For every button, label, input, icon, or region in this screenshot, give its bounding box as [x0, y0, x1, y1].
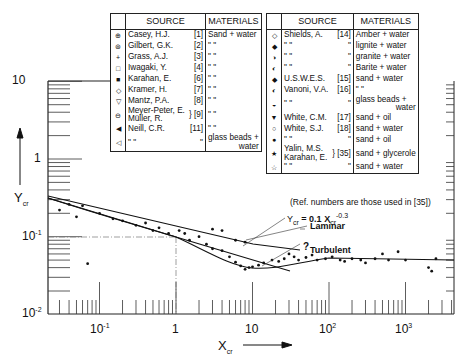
eq-exp: -0.3 — [336, 212, 348, 219]
source-name: " " — [284, 64, 328, 72]
materials-text: " " — [208, 42, 259, 50]
materials-text: sand + oil — [356, 136, 416, 144]
legend-source: " " — [282, 52, 331, 63]
legend-materials: sand + water — [353, 162, 417, 173]
legend-marker-icon: □ — [111, 63, 126, 74]
reference-note: (Ref. numbers are those used in [35]) — [290, 197, 431, 207]
tick-base: 10 — [22, 306, 35, 320]
legend-source: " " — [282, 96, 331, 112]
legend-ref: } [9] — [187, 107, 206, 123]
legend-marker-icon: ★ — [267, 145, 282, 161]
legend-row: □Iwagaki, Y.[4]" " — [111, 63, 261, 74]
legend-header-materials: MATERIALS — [206, 14, 261, 30]
source-name: Vanoni, V.A. — [284, 86, 328, 94]
legend-source: Neill, C.R. — [126, 123, 187, 134]
legend-row: ⊖Meyer-Peter, E.Müller, R.} [9]" " — [111, 107, 261, 123]
legend-source: " " — [282, 41, 331, 52]
y-label-main: Y — [14, 190, 23, 205]
source-name: Shields, A. — [284, 31, 328, 39]
legend-row: ◆" ""lignite + water — [267, 41, 418, 52]
x-label-main: X — [218, 338, 227, 353]
legend-ref: " — [330, 63, 353, 74]
source-name: Casey, H.J. — [128, 31, 185, 39]
turbulent-label: Turbulent — [310, 245, 351, 255]
source-name: " " — [128, 139, 185, 147]
legend-ref: } [35] — [330, 145, 353, 161]
source-name: Kramer, H. — [128, 86, 185, 94]
legend-source: Yalin, M.S.Karahan, E. — [282, 145, 331, 161]
materials-text-2: water — [356, 104, 416, 112]
legend-materials: sand + water — [353, 123, 417, 134]
legend-marker-icon: ◆ — [267, 41, 282, 52]
materials-text: " " — [208, 64, 259, 72]
legend-ref: [18] — [330, 123, 353, 134]
legend-source: Karahan, E. — [126, 74, 187, 85]
tick-base: 10 — [395, 322, 408, 336]
legend-ref: " — [187, 134, 206, 150]
legend-marker-icon: ● — [267, 134, 282, 145]
materials-text: sand + water — [356, 75, 416, 83]
turbulent-curve — [48, 198, 454, 268]
legend-header-symbol — [111, 14, 126, 30]
tick-base: 10 — [90, 322, 103, 336]
y-tick-0.1: 10-1 — [22, 229, 42, 243]
legend-marker-icon: ▼ — [267, 112, 282, 123]
legend-marker-icon: ◐ — [267, 63, 282, 74]
legend-marker-icon: ◁ — [111, 134, 126, 150]
legend-marker-icon: ⊕ — [111, 30, 126, 42]
legend-materials: Barite + water — [353, 63, 417, 74]
y-axis-title: Ycr — [14, 190, 29, 207]
legend-source: Iwagaki, Y. — [126, 63, 187, 74]
materials-text: sand + water — [356, 163, 416, 171]
source-name: U.S.W.E.S. — [284, 75, 328, 83]
source-name: Grass, A.J. — [128, 53, 185, 61]
legend-marker-icon: ◆ — [267, 74, 282, 85]
legend-header-symbol — [267, 14, 282, 30]
x-label-sub: cr — [227, 348, 233, 355]
question-mark: ? — [303, 241, 309, 252]
tick-exp: 3 — [408, 322, 412, 329]
legend-materials: glass beads +water — [353, 96, 417, 112]
legend-row: ◆U.S.W.E.S.[15]sand + water — [267, 74, 418, 85]
materials-text: " " — [208, 75, 259, 83]
legend-ref: [4] — [187, 63, 206, 74]
legend-row: ○White, S.J.[18]sand + water — [267, 123, 418, 134]
legend-source: White, C.M. — [282, 112, 331, 123]
source-name: " " — [284, 163, 328, 171]
legend-row: ⊛Gilbert, G.K.[2]" " — [111, 41, 261, 52]
legend-row: ◇Shields, A.[14]Amber + water — [267, 30, 418, 42]
legend-materials: " " — [206, 107, 261, 123]
legend-ref: [6] — [187, 74, 206, 85]
legend-materials: Sand + water — [206, 30, 261, 42]
legend-ref: " — [330, 41, 353, 52]
legend-right: SOURCE MATERIALS ◇Shields, A.[14]Amber +… — [266, 13, 419, 174]
legend-ref: [14] — [330, 30, 353, 42]
source-name: " " — [284, 53, 328, 61]
legend-marker-icon: ▽ — [111, 96, 126, 107]
curves — [48, 196, 454, 271]
legend-row: ■Karahan, E.[6]" " — [111, 74, 261, 85]
legend-row: ◒" ""glass beads +water — [267, 96, 418, 112]
x-tick-10: 10 — [245, 322, 258, 336]
legend-marker-icon: ◒ — [267, 96, 282, 112]
legend-materials: " " — [206, 63, 261, 74]
legend-materials: " " — [206, 85, 261, 96]
materials-text: lignite + water — [356, 42, 416, 50]
source-name: Karahan, E. — [128, 75, 185, 83]
tick-exp: -1 — [35, 229, 41, 236]
materials-text: " " — [356, 86, 416, 94]
legend-marker-icon: ⊖ — [111, 107, 126, 123]
materials-text: " " — [208, 86, 259, 94]
legend-materials: " " — [206, 96, 261, 107]
legend-materials: " " — [206, 52, 261, 63]
source-name: White, S.J. — [284, 125, 328, 133]
legend-source: Kramer, H. — [126, 85, 187, 96]
legend-ref: [7] — [187, 85, 206, 96]
legend-source: U.S.W.E.S. — [282, 74, 331, 85]
source-name: Iwagaki, Y. — [128, 64, 185, 72]
x-tick-1000: 103 — [395, 322, 412, 336]
legend-materials: glass beads +water — [206, 134, 261, 150]
legend-ref: " — [330, 96, 353, 112]
legend-row: ▼White, C.M.[17]sand + oil — [267, 112, 418, 123]
legend-materials: " " — [206, 74, 261, 85]
